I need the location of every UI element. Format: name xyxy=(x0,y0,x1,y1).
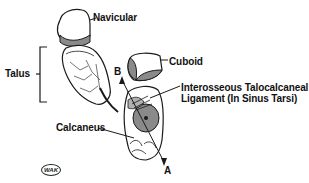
label-calcaneus: Calcaneus xyxy=(56,122,105,133)
label-ligament-line2: Ligament (In Sinus Tarsi) xyxy=(181,93,308,104)
navicular-bone xyxy=(58,9,96,46)
talus-bone xyxy=(62,45,118,112)
label-ligament: Interosseous Talocalcaneal Ligament (In … xyxy=(181,82,308,104)
label-navicular: Navicular xyxy=(93,12,137,23)
label-axis-a: A xyxy=(164,165,171,176)
label-axis-b: B xyxy=(114,66,121,77)
wak-logo: WAK xyxy=(41,164,61,176)
anatomy-diagram: Navicular Cuboid Talus Interosseous Talo… xyxy=(0,0,309,183)
talus-bracket xyxy=(36,47,47,102)
label-ligament-line1: Interosseous Talocalcaneal xyxy=(181,82,308,93)
label-cuboid: Cuboid xyxy=(169,56,203,67)
cuboid-bone xyxy=(128,53,168,80)
label-talus: Talus xyxy=(5,68,30,79)
